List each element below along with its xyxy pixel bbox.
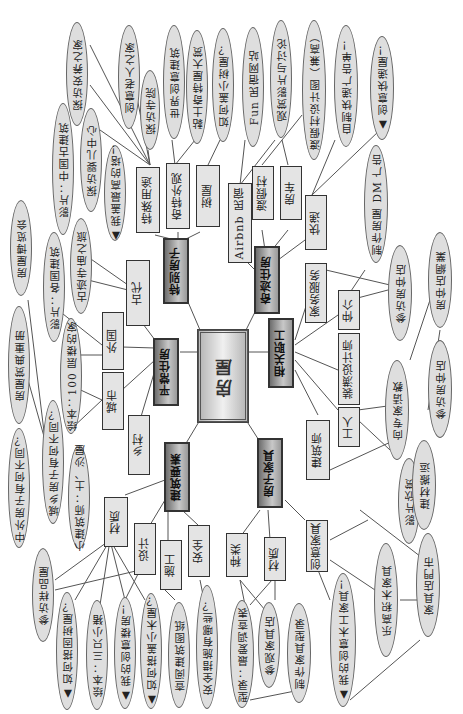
oval-my-creative-woodwork[interactable]: ▲ 我的创意木工家具！ — [330, 573, 356, 707]
oval-safety-measures[interactable]: 安全措施有哪些？ — [196, 585, 218, 709]
box-foreign[interactable]: 外国 — [102, 312, 124, 370]
root-node-house[interactable]: 房屋 — [198, 330, 248, 422]
oval-urban-rural-houses[interactable]: 城乡房子有何不同？ — [42, 400, 64, 524]
hub-ordinary-housing[interactable]: 平常住房 — [153, 338, 179, 406]
oval-chinese-foreign-houses[interactable]: 中外房子有何不同？ — [8, 428, 30, 548]
oval-world-creative-architecture[interactable]: 世界创意建筑 — [163, 25, 185, 139]
oval-building-material-haul[interactable]: 建材搬运 — [412, 440, 436, 530]
oval-how-build-log-cabin[interactable]: ▲ 如何搭盖小木屋？ — [140, 593, 162, 709]
box-design[interactable]: 设计 — [134, 523, 156, 575]
box-material[interactable]: 材质 — [104, 497, 128, 547]
oval-how-build-treehouse[interactable]: 如何盖小树屋？ — [212, 28, 234, 142]
oval-make-dm-ad[interactable]: 制作房屋 DM 广告 — [364, 145, 388, 263]
oval-creative-elderly-home[interactable]: 创意老人之家 — [118, 25, 140, 129]
box-architect[interactable]: 建筑师 — [306, 420, 330, 480]
box-unusual-appearance[interactable]: 奇特外观 — [166, 163, 190, 229]
oval-visit-elderly-home[interactable]: 探访安养之家 — [66, 22, 88, 126]
box-resort[interactable]: 渡假村 — [252, 166, 274, 220]
oval-watch-film-discuss[interactable]: 观赏影片与讨论 — [270, 20, 292, 138]
box-agent[interactable]: 仲介 — [338, 290, 360, 330]
oval-furniture-store-front[interactable]: 家具店門市 — [416, 533, 440, 637]
oval-fun-bnb-website[interactable]: Fun 民宿网站 — [242, 27, 264, 147]
oval-my-creative-building[interactable]: ▲ 我的创意楼房！ — [114, 597, 136, 709]
box-express-delivery[interactable]: 快递 — [305, 195, 327, 250]
oval-historic-temple-tour[interactable]: 古迹寺庙之旅 — [70, 218, 92, 314]
hub-special-house[interactable]: 特别房子 — [163, 238, 189, 304]
oval-little-architect[interactable]: 小建筑师：土、沙屋 — [68, 445, 90, 549]
box-interior-designer[interactable]: 装潢设计师 — [338, 333, 360, 405]
oval-visit-furniture-store[interactable]: 参观家具店 — [258, 602, 280, 688]
oval-realty-business[interactable]: 房仲店網業 — [428, 232, 452, 328]
box-safety[interactable]: 安全 — [188, 525, 210, 577]
oval-catalog-survey[interactable]: 型录：最爱调查表 — [230, 600, 254, 708]
box-ancient[interactable]: 古代 — [126, 260, 150, 326]
box-housekeeping[interactable]: 家务服务 — [305, 263, 327, 323]
oval-build-tallest-tower[interactable]: ▲ 我盖最高的塔！ — [104, 145, 126, 241]
oval-film-chinese-architecture[interactable]: 影片：中国古建筑 — [52, 103, 74, 235]
box-treehouse[interactable]: 树屋 — [196, 165, 220, 227]
oval-visit-model-house[interactable]: 参访样品屋 — [32, 548, 54, 642]
oval-picture-book-100-floors[interactable]: 绘本：100 层楼的家 — [60, 318, 82, 434]
box-construction[interactable]: 施工 — [160, 540, 182, 590]
box-countryside[interactable]: 乡村 — [128, 415, 150, 475]
box-airbnb[interactable]: Airbnb 民宿 — [228, 183, 252, 263]
oval-visit-realty-1[interactable]: 参访房仲店 — [388, 245, 412, 341]
oval-house-appreciation[interactable]: 房屋赏典重册 — [8, 306, 30, 424]
oval-make-furniture-catalog[interactable]: 制作家具型录 — [287, 603, 311, 703]
oval-visit-realty-2[interactable]: 参访房仲店 — [428, 340, 452, 438]
box-worker[interactable]: 工人 — [338, 407, 360, 447]
oval-ask-experts[interactable]: 向专家请教 — [385, 360, 409, 460]
oval-creative-delivery-house[interactable]: ▲ 创意快递屋！ — [370, 36, 394, 140]
oval-visit-infant-center[interactable]: 探访婴儿中心 — [80, 108, 102, 212]
box-special-purpose[interactable]: 特殊用途 — [136, 167, 160, 233]
hub-building-elements[interactable]: 建筑要素 — [164, 442, 190, 512]
box-furniture-material[interactable]: 材质 — [264, 537, 286, 581]
hub-amazing-housing[interactable]: 奇迹住房 — [254, 246, 280, 314]
oval-homemade-delivery-ad[interactable]: 自制快递广告单！ — [334, 25, 358, 147]
oval-lego-furniture[interactable]: 乐高积木家具 — [374, 543, 398, 657]
oval-three-little-pigs[interactable]: 绘本：三只小猪 — [86, 600, 108, 710]
oval-review-blueprints[interactable]: 查阅建筑图纸 — [168, 602, 190, 708]
oval-house-expo[interactable]: 房屋博览会 — [10, 200, 32, 296]
hub-house-furniture[interactable]: 房子家具 — [257, 438, 283, 508]
box-rv[interactable]: 房车 — [280, 166, 302, 220]
box-city[interactable]: 城市 — [102, 372, 124, 430]
box-type[interactable]: 种类 — [226, 533, 248, 577]
box-creative-furniture[interactable]: 创意家具 — [306, 520, 328, 572]
oval-visit-temple[interactable]: 探访寺院 — [140, 70, 160, 150]
mind-map-canvas: 房屋 特别房子 奇迹住房 平常住房 相关职工 建筑要素 房子家具 特殊用途 奇特… — [0, 0, 463, 714]
hub-related-workers[interactable]: 相关职工 — [268, 318, 294, 388]
oval-clay-odd-house[interactable]: 黏土奇特屋大赏 — [186, 30, 208, 144]
oval-resort-design[interactable]: 渡假村设计图（兼高） — [302, 20, 326, 160]
oval-how-sturdy-treehouse[interactable]: ▲ 如何搭固树屋？ — [56, 592, 78, 710]
oval-film-world-architecture[interactable]: 影片：各国建筑 — [43, 232, 65, 342]
